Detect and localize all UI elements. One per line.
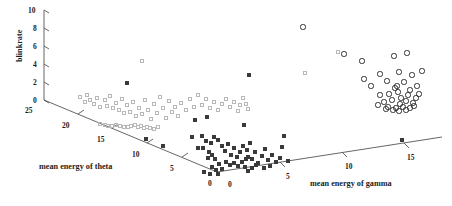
gamma-tick-label-0: 0: [228, 181, 232, 189]
data-point: [193, 118, 196, 121]
blinkrate-tick-label-10: 10: [28, 7, 35, 15]
data-point: [403, 98, 408, 103]
data-point: [158, 95, 162, 99]
data-point: [210, 165, 213, 168]
data-point: [268, 164, 271, 167]
blinkrate-tick-label-8: 8: [33, 25, 37, 33]
data-point: [375, 102, 380, 107]
data-point: [140, 59, 144, 63]
data-point: [202, 170, 205, 173]
theta-tick-10: [147, 139, 153, 143]
gamma-tick-15: [404, 143, 409, 148]
data-point: [226, 142, 229, 145]
data-point: [131, 100, 135, 104]
data-point: [416, 91, 421, 96]
gamma-tick-label-5: 5: [286, 173, 290, 181]
data-point: [125, 103, 129, 107]
data-point: [228, 163, 231, 166]
data-point: [196, 93, 200, 97]
theta-tick-label-20: 20: [62, 122, 69, 130]
theta-tick-20: [78, 110, 84, 114]
data-point: [232, 100, 236, 104]
data-point: [200, 134, 203, 137]
data-point: [396, 69, 401, 74]
data-point: [238, 103, 242, 107]
data-point: [270, 153, 273, 156]
blinkrate-tick-label-6: 6: [33, 43, 37, 51]
data-point: [98, 122, 102, 126]
data-point: [210, 153, 213, 156]
data-point: [247, 73, 250, 76]
data-point: [396, 108, 401, 113]
blinkrate-tick-10: [44, 10, 49, 13]
theta-tick-label-10: 10: [132, 151, 139, 159]
data-point: [274, 160, 277, 163]
gamma-tick-label-15: 15: [407, 154, 414, 162]
data-point: [368, 83, 373, 88]
data-point: [149, 117, 153, 121]
data-point: [398, 95, 403, 100]
data-point: [414, 83, 419, 88]
data-point: [167, 99, 171, 103]
data-point: [206, 156, 209, 159]
data-point: [105, 104, 109, 108]
data-point: [341, 51, 346, 56]
data-point: [110, 124, 114, 128]
theta-tick-label-15: 15: [97, 136, 104, 144]
data-point: [286, 159, 289, 162]
data-point: [85, 93, 89, 97]
data-point: [303, 71, 307, 75]
data-point: [155, 111, 159, 115]
data-point: [241, 96, 245, 100]
data-point: [262, 166, 265, 169]
data-point: [241, 144, 244, 147]
data-point: [83, 100, 87, 104]
data-point: [217, 162, 220, 165]
data-point: [214, 168, 217, 171]
data-point: [253, 150, 256, 153]
data-point: [213, 157, 216, 160]
data-point: [144, 137, 147, 140]
data-point: [361, 76, 366, 81]
data-point: [238, 150, 241, 153]
blinkrate-tick-label-4: 4: [33, 61, 37, 69]
data-point: [236, 109, 240, 113]
data-point: [161, 144, 164, 147]
data-point: [401, 79, 406, 84]
gamma-tick-10: [342, 152, 347, 157]
data-point: [246, 155, 249, 158]
blinkrate-tick-label-2: 2: [33, 79, 37, 87]
data-point: [111, 106, 115, 110]
gamma-tick-label-10: 10: [345, 163, 352, 171]
data-point: [336, 50, 340, 54]
data-point: [161, 106, 165, 110]
data-point: [263, 147, 266, 150]
data-point: [204, 97, 208, 101]
blinkrate-tick-4: [44, 64, 49, 67]
data-point: [377, 92, 382, 97]
data-point: [156, 125, 160, 129]
data-point: [391, 53, 396, 58]
data-point: [170, 110, 174, 114]
data-point: [128, 110, 132, 114]
gamma-tick-5: [280, 162, 285, 167]
data-point: [209, 141, 212, 144]
data-point: [201, 146, 204, 149]
data-point: [400, 138, 403, 141]
data-point: [228, 105, 232, 109]
data-point: [403, 107, 408, 112]
data-point: [120, 97, 124, 101]
data-point: [204, 139, 207, 142]
data-point: [152, 102, 156, 106]
data-point: [280, 145, 283, 148]
theta-tick-label-5: 5: [170, 165, 174, 173]
data-point: [250, 166, 253, 169]
theta-tick-label-0: 0: [208, 180, 212, 188]
data-point: [386, 91, 391, 96]
data-point: [92, 102, 96, 106]
data-point: [232, 161, 235, 164]
data-point: [407, 87, 412, 92]
data-point: [95, 96, 99, 100]
data-point: [254, 163, 257, 166]
data-point: [188, 97, 192, 101]
